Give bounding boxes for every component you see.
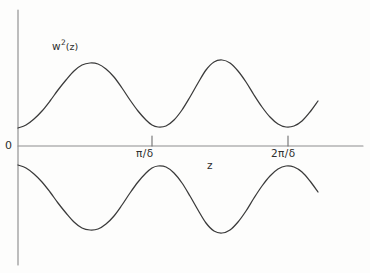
curve-label: w2(z)	[52, 39, 78, 51]
curve-label-base: w	[52, 40, 61, 52]
curve-label-argument: (z)	[66, 41, 78, 52]
lower-envelope-curve	[18, 165, 318, 233]
upper-envelope-curve	[18, 60, 318, 128]
x-axis-label: z	[207, 160, 213, 171]
figure-canvas: 0 w2(z) π/δ 2π/δ z	[0, 0, 370, 273]
x-tick-label-2pi-over-delta: 2π/δ	[271, 148, 296, 159]
x-tick-label-pi-over-delta: π/δ	[136, 148, 153, 159]
origin-label: 0	[5, 140, 12, 151]
